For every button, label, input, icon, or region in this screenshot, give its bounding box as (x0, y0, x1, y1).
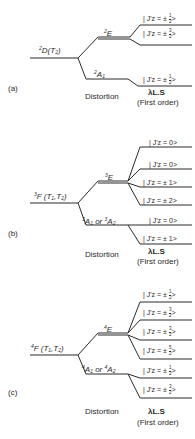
term-symbol: 2D(T2) (39, 44, 61, 57)
state-label: | J'z = ± 32> (143, 385, 175, 395)
term-symbol: 3F (T1,T2) (34, 190, 67, 203)
state-label: | J'z = ± 1> (143, 234, 177, 243)
state-label: | J'z = ± 12> (143, 290, 175, 300)
distortion-label: Distortion (85, 92, 119, 101)
state-label: | J'z = ± 52> (143, 346, 175, 356)
lower-level-label: 4A1 or 4A2 (82, 363, 115, 376)
upper-level-label: 2E (104, 27, 112, 38)
spin-orbit-label: λL.S (148, 247, 165, 256)
state-label: | J'z = ± 2> (143, 196, 177, 205)
state-label: | J'z = 0> (149, 160, 177, 169)
state-label: | J'z = ± 32> (143, 327, 175, 337)
lower-level-label: 3A1 or 3A2 (82, 215, 115, 228)
state-label: | J'z = ± 1> (143, 178, 177, 187)
distortion-label: Distortion (85, 250, 119, 259)
state-label: | J'z = 0> (149, 216, 177, 225)
upper-level-label: 4E (104, 323, 112, 334)
panel-label: (c) (8, 388, 17, 397)
upper-level-label: 3E (105, 171, 113, 182)
state-label: | J'z = ± 32> (143, 29, 175, 39)
spin-orbit-label: λL.S (148, 88, 165, 97)
state-label: | J'z = ± 12> (143, 14, 175, 24)
order-label: (First order) (137, 418, 179, 427)
state-label: | J'z = ± 12> (143, 366, 175, 376)
state-label: | J'z = ± 32> (143, 308, 175, 318)
panel-label: (b) (8, 229, 18, 238)
lower-level-label: 2A1 (94, 68, 105, 81)
distortion-label: Distortion (85, 407, 119, 416)
order-label: (First order) (137, 98, 179, 107)
panel-label: (a) (8, 84, 18, 93)
term-symbol: 4F (T1,T2) (31, 342, 64, 355)
order-label: (First order) (137, 257, 179, 266)
state-label: | J'z = 0> (149, 138, 177, 147)
spin-orbit-label: λL.S (148, 407, 165, 416)
state-label: | J'z = ± 12> (143, 75, 175, 85)
